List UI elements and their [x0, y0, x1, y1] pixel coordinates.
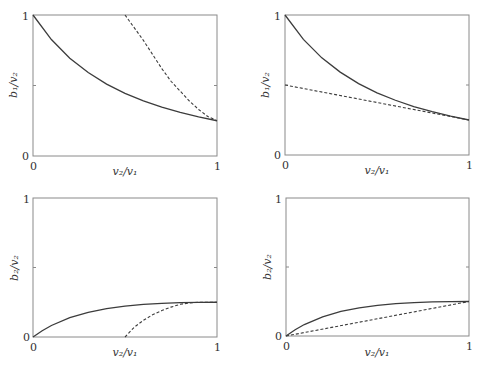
axes-frame — [33, 198, 217, 337]
y-tick-0: 0 — [22, 150, 29, 163]
dashed-curve — [285, 85, 469, 120]
x-tick-1: 1 — [214, 160, 221, 173]
dashed-curve — [125, 302, 217, 337]
y-axis-label: b₁/v₂ — [7, 72, 20, 98]
y-tick-0: 0 — [275, 330, 282, 343]
y-tick-1: 1 — [23, 193, 30, 206]
x-tick-1: 1 — [214, 341, 221, 354]
y-tick-0: 0 — [274, 149, 281, 162]
y-tick-0: 0 — [23, 331, 30, 344]
axes-frame — [33, 15, 217, 156]
x-axis-label: v₂/v₁ — [365, 164, 390, 177]
panel-top-left: 1 0 0 1 v₂/v₁ b₁/v₂ — [7, 10, 221, 178]
x-axis-label: v₂/v₁ — [365, 346, 390, 359]
x-tick-0: 0 — [30, 341, 37, 354]
y-tick-1: 1 — [22, 10, 29, 23]
panel-top-right: 1 0 0 1 v₂/v₁ b₁/v₂ — [259, 10, 473, 177]
x-axis-label: v₂/v₁ — [113, 346, 138, 359]
y-tick-1: 1 — [274, 10, 281, 23]
x-axis-label: v₂/v₁ — [113, 165, 138, 178]
x-tick-1: 1 — [466, 159, 473, 172]
y-axis-label: b₂/v₂ — [8, 255, 21, 281]
axes-frame — [286, 198, 469, 336]
dashed-curve — [286, 302, 469, 337]
solid-curve — [285, 15, 469, 120]
figure: 1 0 0 1 v₂/v₁ b₁/v₂ 1 0 0 1 v₂/v₁ b₁/v₂ … — [0, 0, 482, 365]
solid-curve — [33, 302, 217, 337]
y-tick-1: 1 — [275, 193, 282, 206]
axes-frame — [285, 15, 469, 155]
panel-bottom-left: 1 0 0 1 v₂/v₁ b₂/v₂ — [8, 193, 221, 359]
x-tick-0: 0 — [30, 160, 37, 173]
dashed-curve — [125, 15, 217, 121]
solid-curve — [33, 15, 217, 121]
x-tick-0: 0 — [283, 340, 290, 353]
x-tick-0: 0 — [282, 159, 289, 172]
panel-bottom-right: 1 0 0 1 v₂/v₁ b₂/v₂ — [261, 193, 473, 359]
y-axis-label: b₁/v₂ — [259, 72, 272, 98]
y-axis-label: b₂/v₂ — [261, 254, 274, 280]
x-tick-1: 1 — [466, 340, 473, 353]
